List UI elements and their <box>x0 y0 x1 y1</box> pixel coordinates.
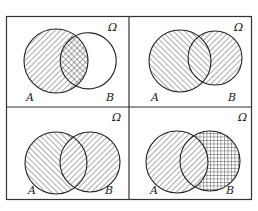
set-b-label: B <box>104 184 113 197</box>
panel-2: Ω A B <box>149 21 243 104</box>
universe-label: Ω <box>233 21 243 34</box>
set-b-label: B <box>225 184 234 197</box>
panel-4: Ω A B <box>146 111 247 197</box>
universe-label: Ω <box>107 21 117 34</box>
universe-label: Ω <box>111 111 121 124</box>
set-b-label: B <box>227 91 236 104</box>
panel-1: Ω A B <box>24 21 117 104</box>
set-a-label: A <box>27 184 36 197</box>
set-b-label: B <box>105 91 114 104</box>
set-a-label: A <box>150 91 159 104</box>
set-a-label: A <box>149 184 158 197</box>
venn-diagram-figure: Ω A B Ω A B Ω A B Ω A B <box>0 0 258 211</box>
panel-3: Ω A B <box>25 111 121 197</box>
set-a-label: A <box>25 91 34 104</box>
universe-label: Ω <box>237 111 247 124</box>
